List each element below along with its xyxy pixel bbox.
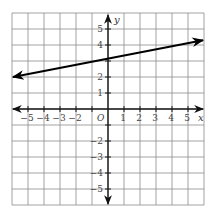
x-tick-label: 1 — [120, 113, 126, 123]
y-tick-label: 4 — [97, 40, 103, 50]
y-tick-label: −5 — [90, 184, 104, 194]
y-axis-label: y — [113, 14, 120, 25]
y-tick-label: 1 — [97, 88, 103, 98]
y-tick-label: 2 — [97, 72, 103, 82]
x-tick-label: 2 — [136, 113, 142, 123]
origin-label: O — [97, 113, 105, 123]
y-tick-label: 5 — [97, 24, 103, 34]
x-tick-label: −5 — [20, 113, 34, 123]
x-tick-label: 4 — [168, 113, 174, 123]
y-tick-label: −2 — [90, 136, 103, 146]
x-tick-label: 5 — [184, 113, 190, 123]
x-tick-label: −2 — [68, 113, 81, 123]
x-tick-label: −4 — [36, 113, 50, 123]
x-axis-label: x — [198, 112, 204, 123]
y-tick-label: −3 — [90, 152, 104, 162]
x-tick-label: 3 — [152, 113, 158, 123]
y-tick-label: −4 — [90, 168, 104, 178]
axes — [13, 15, 203, 204]
x-tick-label: −3 — [52, 113, 66, 123]
coordinate-plane: −5−4−3−2123455421−2−3−4−5 x y O — [0, 0, 215, 220]
